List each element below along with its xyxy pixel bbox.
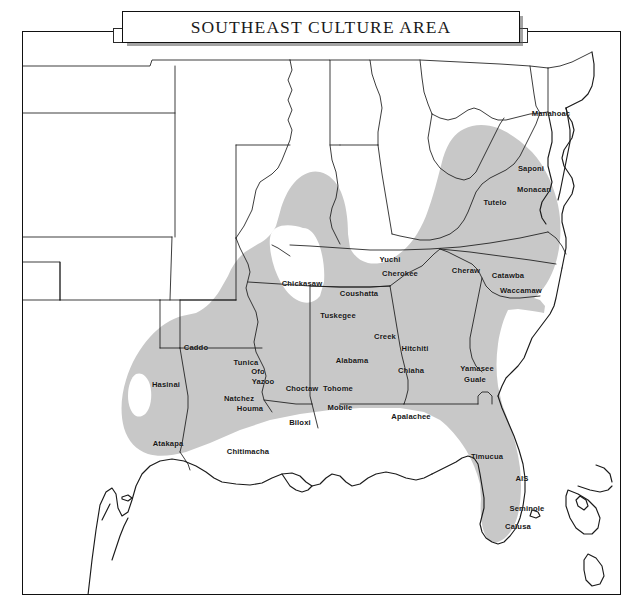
tribe-label-tunica: Tunica: [234, 359, 259, 367]
tribe-label-natchez: Natchez: [224, 395, 254, 403]
tribe-label-yazoo: Yazoo: [252, 378, 275, 386]
tribe-label-caddo: Caddo: [184, 344, 208, 352]
tribe-label-houma: Houma: [237, 405, 264, 413]
tribe-label-ofo: Ofo: [251, 368, 265, 376]
tribe-label-tutelo: Tutelo: [483, 199, 506, 207]
tribe-label-monacan: Monacan: [517, 186, 551, 194]
tribe-label-chickasaw: Chickasaw: [282, 280, 323, 288]
tribe-label-yamasee: Yamasee: [460, 365, 494, 373]
tribe-label-apalachee: Apalachee: [391, 413, 430, 421]
tribe-label-chitimacha: Chitimacha: [227, 448, 269, 456]
page-title: SOUTHEAST CULTURE AREA: [123, 12, 519, 42]
title-plate: SOUTHEAST CULTURE AREA: [122, 11, 520, 43]
tribe-label-alabama: Alabama: [336, 357, 369, 365]
tribe-label-yuchi: Yuchi: [379, 256, 400, 264]
tribe-label-calusa: Calusa: [505, 523, 531, 531]
tribe-label-catawba: Catawba: [492, 272, 524, 280]
tribe-label-tuskegee: Tuskegee: [320, 312, 356, 320]
tribe-label-coushatta: Coushatta: [340, 290, 378, 298]
tribe-label-tohome: Tohome: [323, 385, 353, 393]
tribe-label-chiaha: Chiaha: [398, 367, 424, 375]
tribe-label-timucua: Timucua: [471, 453, 503, 461]
tribe-label-saponi: Saponi: [518, 165, 544, 173]
tribe-label-waccamaw: Waccamaw: [500, 287, 542, 295]
tribe-label-mobile: Mobile: [328, 404, 353, 412]
tribe-label-atakapa: Atakapa: [153, 440, 184, 448]
tribe-label-hasinai: Hasinai: [152, 381, 180, 389]
tribe-label-ais: AIS: [515, 475, 528, 483]
tribe-label-guale: Guale: [464, 376, 486, 384]
tribe-label-creek: Creek: [374, 333, 396, 341]
tribe-label-biloxi: Biloxi: [289, 419, 311, 427]
tribe-label-cheraw: Cheraw: [452, 267, 480, 275]
tribe-label-manahoac: Manahoac: [532, 110, 570, 118]
tribe-label-hitchiti: Hitchiti: [402, 345, 429, 353]
map-page: SOUTHEAST CULTURE AREA: [0, 0, 640, 615]
culture-area-shading: [122, 125, 561, 542]
tribe-label-choctaw: Choctaw: [286, 385, 319, 393]
tribe-label-cherokee: Cherokee: [382, 270, 418, 278]
tribe-label-seminole: Seminole: [510, 505, 545, 513]
